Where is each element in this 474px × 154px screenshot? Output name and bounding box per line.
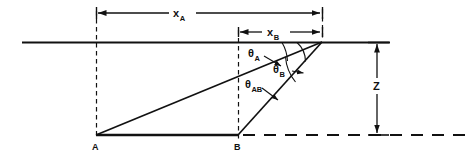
ray-a-to-apex (96, 42, 322, 135)
label-distance-a-subscript: A (180, 14, 186, 23)
label-angle-b-subscript: B (279, 70, 285, 79)
label-distance-b-subscript: B (274, 33, 280, 42)
label-angle-b-symbol: θ (273, 63, 279, 75)
label-point-b: B (234, 142, 241, 152)
label-depth: Z (373, 80, 380, 92)
label-angle-ab: θAB (245, 78, 263, 94)
geometry-diagram: xA xB Z θA θB θAB A B (0, 0, 474, 154)
label-distance-a: xA (173, 7, 186, 23)
label-angle-a-subscript: A (254, 54, 260, 63)
diagram-canvas: xA xB Z θA θB θAB A B (0, 0, 474, 154)
label-distance-b: xB (267, 26, 280, 42)
label-point-a: A (92, 142, 99, 152)
label-depth-symbol: Z (373, 80, 380, 92)
label-angle-a: θA (248, 47, 260, 63)
label-angle-ab-subscript: AB (251, 85, 262, 94)
label-angle-a-symbol: θ (248, 47, 254, 59)
label-angle-ab-symbol: θ (245, 78, 251, 90)
